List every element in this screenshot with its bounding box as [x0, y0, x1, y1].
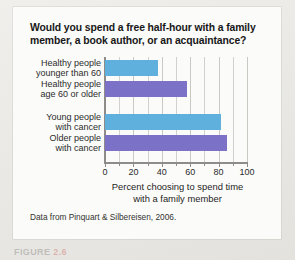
x-axis-title: Percent choosing to spend time with a fa…: [105, 181, 250, 204]
category-label-line-1: Older people: [15, 133, 101, 143]
category-label-line-1: Healthy people: [15, 58, 101, 68]
gridline: [247, 57, 248, 162]
bar: [105, 114, 221, 130]
x-axis-title-line-1: Percent choosing to spend time: [112, 181, 243, 192]
x-axis-tick-label: 40: [157, 167, 167, 177]
category-label: Healthy peopleage 60 or older: [15, 79, 101, 100]
category-label-line-2: younger than 60: [15, 68, 101, 78]
x-axis-tick: [119, 162, 120, 166]
x-axis-tick-label: 20: [128, 167, 138, 177]
page-background: Would you spend a free half-hour with a …: [0, 0, 295, 260]
x-axis-title-line-2: with a family member: [133, 193, 222, 204]
x-axis-tick: [148, 162, 149, 166]
figure-caption-prefix: FIGURE: [14, 247, 50, 257]
source-note: Data from Pinquart & Silbereisen, 2006.: [30, 212, 176, 222]
category-label-line-2: with cancer: [15, 122, 101, 132]
bar: [105, 135, 227, 151]
x-axis-tick-label: 60: [185, 167, 195, 177]
x-axis-tick-label: 100: [239, 167, 254, 177]
x-axis-tick: [204, 162, 205, 166]
category-label: Young peoplewith cancer: [15, 112, 101, 133]
bar: [105, 81, 187, 97]
category-label-line-1: Healthy people: [15, 79, 101, 89]
x-axis-tick-label: 0: [102, 167, 107, 177]
category-label-line-1: Young people: [15, 112, 101, 122]
x-axis-tick-label: 80: [214, 167, 224, 177]
bar: [105, 60, 158, 76]
x-axis-tick: [176, 162, 177, 166]
figure-caption-number: 2.6: [53, 247, 67, 257]
category-label: Healthy peopleyounger than 60: [15, 58, 101, 79]
figure-card: Would you spend a free half-hour with a …: [13, 7, 281, 239]
x-axis-tick: [233, 162, 234, 166]
category-label-line-2: with cancer: [15, 143, 101, 153]
chart-plot: 020406080100 Healthy peopleyounger than …: [13, 7, 281, 239]
category-label: Older peoplewith cancer: [15, 133, 101, 154]
figure-caption: FIGURE 2.6: [14, 247, 67, 260]
gridline: [233, 57, 234, 162]
category-label-line-2: age 60 or older: [15, 89, 101, 99]
